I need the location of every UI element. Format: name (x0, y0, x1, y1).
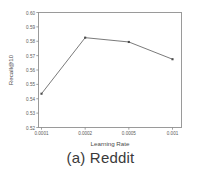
svg-text:0.0005: 0.0005 (122, 131, 136, 136)
svg-text:0.0002: 0.0002 (78, 131, 92, 136)
svg-text:0.58: 0.58 (26, 39, 35, 44)
svg-text:0.52: 0.52 (26, 126, 35, 131)
svg-text:0.60: 0.60 (26, 11, 35, 16)
svg-text:0.59: 0.59 (26, 25, 35, 30)
svg-text:0.54: 0.54 (26, 97, 35, 102)
figure-panel: 0.520.530.540.550.560.570.580.590.60 0.0… (0, 0, 201, 177)
x-axis-title: Learning Rate (91, 140, 130, 147)
x-axis-tick-labels: 0.00010.00020.00050.001 (34, 131, 178, 136)
svg-text:0.001: 0.001 (167, 131, 179, 136)
svg-text:0.56: 0.56 (26, 68, 35, 73)
svg-text:0.57: 0.57 (26, 54, 35, 59)
svg-text:0.53: 0.53 (26, 111, 35, 116)
y-axis-tick-labels: 0.520.530.540.550.560.570.580.590.60 (26, 11, 35, 131)
svg-text:0.0001: 0.0001 (34, 131, 48, 136)
svg-text:0.55: 0.55 (26, 82, 35, 87)
figure-caption: (a) Reddit (0, 149, 201, 167)
y-axis-title: Recall@10 (7, 54, 14, 85)
